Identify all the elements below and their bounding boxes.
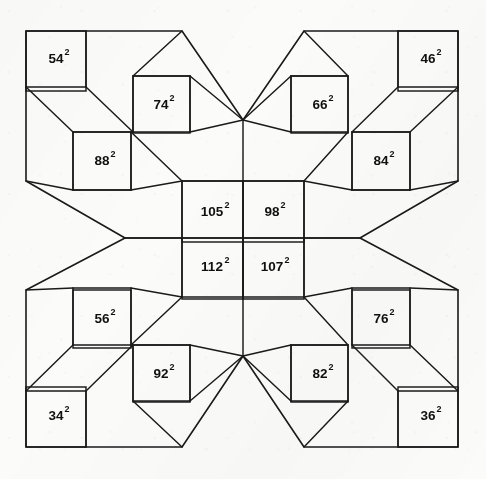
- square-exponent-76: 2: [390, 307, 395, 317]
- square-label-98: 98: [264, 204, 280, 219]
- square-exponent-82: 2: [329, 362, 334, 372]
- square-exponent-34: 2: [65, 404, 70, 414]
- figure-outline: [26, 31, 458, 447]
- square-label-54: 54: [48, 51, 64, 66]
- square-label-112: 112: [201, 259, 223, 274]
- square-exponent-66: 2: [329, 93, 334, 103]
- square-label-36: 36: [420, 408, 436, 423]
- square-exponent-56: 2: [111, 307, 116, 317]
- square-exponent-54: 2: [65, 47, 70, 57]
- square-label-74: 74: [153, 97, 169, 112]
- squared-square-figure: 5427428826624628421052982112210725629223…: [0, 0, 486, 479]
- square-exponent-88: 2: [111, 149, 116, 159]
- square-exponent-107: 2: [284, 255, 289, 265]
- square-exponent-105: 2: [224, 200, 229, 210]
- square-label-92: 92: [153, 366, 168, 381]
- square-exponent-112: 2: [224, 255, 229, 265]
- square-exponent-98: 2: [281, 200, 286, 210]
- square-exponent-92: 2: [170, 362, 175, 372]
- square-label-66: 66: [312, 97, 328, 112]
- square-label-46: 46: [420, 51, 436, 66]
- square-exponent-36: 2: [437, 404, 442, 414]
- square-label-56: 56: [94, 311, 110, 326]
- square-exponent-46: 2: [437, 47, 442, 57]
- square-label-105: 105: [201, 204, 224, 219]
- square-exponent-84: 2: [390, 149, 395, 159]
- square-label-82: 82: [312, 366, 327, 381]
- square-label-84: 84: [373, 153, 389, 168]
- square-label-107: 107: [261, 259, 284, 274]
- square-label-88: 88: [94, 153, 110, 168]
- square-label-34: 34: [48, 408, 64, 423]
- square-label-76: 76: [373, 311, 389, 326]
- square-exponent-74: 2: [170, 93, 175, 103]
- diagram-page: 5427428826624628421052982112210725629223…: [0, 0, 486, 479]
